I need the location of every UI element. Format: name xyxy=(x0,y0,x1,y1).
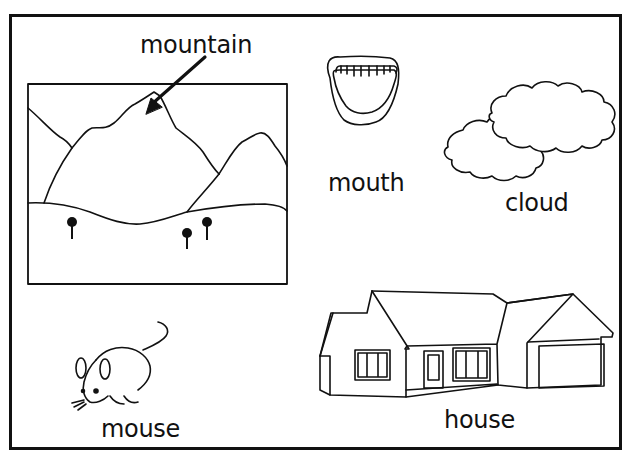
tree-icon xyxy=(67,217,212,249)
word-label-cloud: cloud xyxy=(505,191,569,215)
mouse-picture xyxy=(72,322,168,410)
cloud-picture xyxy=(445,82,615,181)
word-label-mouse: mouse xyxy=(101,417,180,441)
word-label-mountain: mountain xyxy=(140,33,252,57)
word-label-house: house xyxy=(444,408,515,432)
house-picture xyxy=(320,291,613,397)
word-label-mouth: mouth xyxy=(328,171,404,195)
mouth-picture xyxy=(328,56,399,124)
mountain-picture xyxy=(28,57,287,284)
illustrations xyxy=(0,0,637,462)
